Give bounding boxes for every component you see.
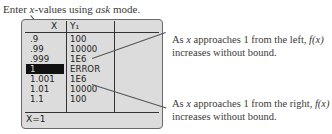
caption-text: mode.: [110, 3, 140, 15]
cell-y-0[interactable]: 100: [70, 34, 86, 44]
cell-x-3-selected[interactable]: 1: [26, 64, 64, 74]
column-divider-1: [66, 21, 67, 112]
cell-y-1[interactable]: 10000: [70, 44, 97, 54]
note-text: increases without bound.: [172, 47, 277, 58]
caption-mode: ask: [96, 3, 111, 15]
cell-x-5[interactable]: 1.01: [30, 84, 49, 94]
caption-text: -values using: [34, 3, 95, 15]
cell-y-4[interactable]: 1E6: [70, 74, 86, 84]
header-divider: [25, 32, 159, 33]
note-text: As: [172, 34, 186, 45]
note-text: approaches 1 from the right,: [191, 98, 315, 109]
note-fx: f(x): [315, 98, 330, 109]
cell-y-3[interactable]: ERROR: [70, 64, 100, 74]
calculator-table-screen: X Y₁ .9 100 .99 10000 .999 1E6 1 ERROR 1…: [21, 19, 163, 129]
cell-x-0[interactable]: .9: [30, 34, 38, 44]
note-text: As: [172, 98, 186, 109]
column-divider-2: [114, 21, 115, 112]
cell-x-6[interactable]: 1.1: [30, 94, 44, 104]
note-text: approaches 1 from the left,: [191, 34, 309, 45]
note-text: increases without bound.: [172, 111, 277, 122]
caption-text: Enter: [3, 3, 30, 15]
cell-x-2[interactable]: .999: [30, 54, 49, 64]
status-line: X=1: [26, 114, 45, 124]
column-header-x: X: [51, 21, 57, 31]
annotation-left: As x approaches 1 from the left, f(x) in…: [172, 33, 324, 59]
column-header-y1: Y₁: [70, 21, 79, 31]
cell-x-1[interactable]: .99: [30, 44, 44, 54]
status-divider: [25, 112, 159, 113]
cell-y-6[interactable]: 100: [70, 94, 86, 104]
annotation-right: As x approaches 1 from the right, f(x) i…: [172, 97, 329, 123]
top-caption: Enter x-values using ask mode.: [3, 3, 140, 16]
cell-y-2[interactable]: 1E6: [70, 54, 86, 64]
cell-x-4[interactable]: 1.001: [30, 74, 55, 84]
note-fx: f(x): [309, 34, 324, 45]
